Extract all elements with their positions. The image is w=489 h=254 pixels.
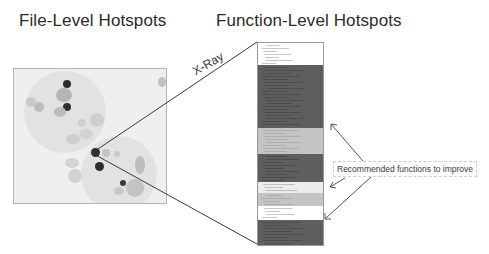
recommended-callout: Recommended functions to improve — [333, 161, 477, 177]
connector-lines — [0, 0, 489, 254]
